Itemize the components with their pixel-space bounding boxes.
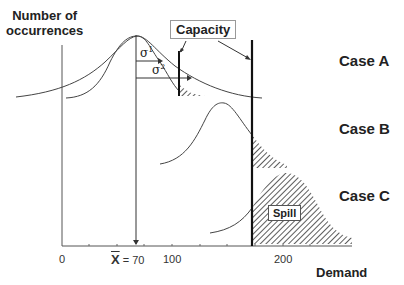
demand-distribution-diagram — [0, 0, 404, 285]
case-c-spill-area — [252, 173, 352, 244]
sigma1-label: σ1 — [140, 45, 153, 60]
x-axis-label: Demand — [316, 265, 367, 280]
capacity-pointer-bc — [218, 41, 248, 58]
capacity-label: Capacity — [170, 20, 236, 39]
y-axis-label-line2: occurrences — [6, 23, 83, 38]
x-tick-0: 0 — [59, 253, 65, 265]
case-a-label: Case A — [339, 52, 389, 69]
spill-label: Spill — [268, 205, 301, 221]
x-tick-100: 100 — [163, 253, 181, 265]
sigma2-label: σ2 — [152, 62, 165, 77]
case-c-label: Case C — [339, 187, 390, 204]
case-b-spill-area — [252, 135, 287, 168]
case-c-curve — [210, 208, 252, 233]
y-axis-label: Number of occurrences — [6, 8, 83, 38]
case-b-label: Case B — [339, 120, 390, 137]
mean-tick-label: X = 70 — [111, 252, 144, 267]
case-b-curve — [160, 103, 252, 164]
x-tick-200: 200 — [274, 253, 292, 265]
case-a-spill-area — [179, 84, 205, 96]
y-axis-label-line1: Number of — [6, 8, 83, 23]
mean-arrowhead — [133, 240, 139, 245]
